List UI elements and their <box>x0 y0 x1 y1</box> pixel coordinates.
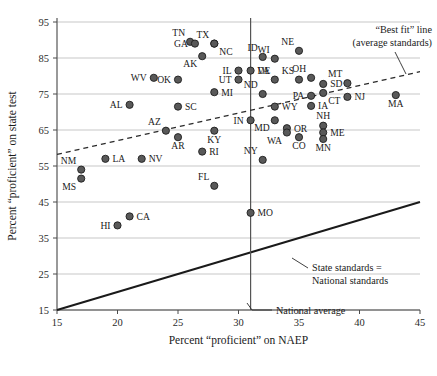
data-point-label-WA: WA <box>267 135 282 146</box>
data-point-SC[interactable] <box>174 103 181 110</box>
data-point-AL[interactable] <box>126 101 133 108</box>
data-point-label-TX: TX <box>197 29 210 40</box>
data-point-NY[interactable] <box>259 156 266 163</box>
data-point-CT[interactable] <box>320 89 327 96</box>
data-point-label-RI: RI <box>209 146 219 157</box>
data-point-IL[interactable] <box>235 67 242 74</box>
data-point-CA[interactable] <box>126 213 133 220</box>
data-point-label-NJ: NJ <box>354 91 365 102</box>
data-point-MT[interactable] <box>344 80 351 87</box>
chart-canvas: 15253545556575859515202530354045Percent … <box>0 0 437 376</box>
data-point-label-TN: TN <box>172 27 185 38</box>
data-point-SD[interactable] <box>320 80 327 87</box>
identity-leader-line <box>292 258 308 268</box>
data-point-MO[interactable] <box>247 209 254 216</box>
scatter-chart: 15253545556575859515202530354045Percent … <box>0 0 437 376</box>
data-point-LA[interactable] <box>102 155 109 162</box>
y-tick-label-75: 75 <box>39 89 50 100</box>
x-tick-label-45: 45 <box>415 317 426 328</box>
x-tick-label-25: 25 <box>173 317 184 328</box>
data-point-NE[interactable] <box>295 47 302 54</box>
x-tick-label-15: 15 <box>52 317 63 328</box>
y-tick-label-65: 65 <box>39 125 50 136</box>
x-tick-label-20: 20 <box>112 317 123 328</box>
data-point-label-PA: PA <box>293 90 304 101</box>
data-point-label-MD: MD <box>254 122 270 133</box>
data-point-NH[interactable] <box>320 122 327 129</box>
best-fit-leader-line <box>395 52 406 74</box>
data-point-WI[interactable] <box>271 55 278 62</box>
data-point-PA[interactable] <box>308 92 315 99</box>
data-point-label-MS: MS <box>62 181 76 192</box>
y-tick-label-85: 85 <box>39 53 50 64</box>
data-point-UT[interactable] <box>235 76 242 83</box>
data-point-WY[interactable] <box>271 103 278 110</box>
data-point-DE[interactable] <box>247 67 254 74</box>
y-tick-label-15: 15 <box>39 305 50 316</box>
data-point-AK[interactable] <box>199 53 206 60</box>
data-point-RI[interactable] <box>199 148 206 155</box>
data-point-NV[interactable] <box>138 155 145 162</box>
data-point-label-WV: WV <box>131 72 147 83</box>
data-point-IN[interactable] <box>247 117 254 124</box>
data-point-label-VA: VA <box>257 65 270 76</box>
data-point-NC[interactable] <box>211 40 218 47</box>
data-point-ND[interactable] <box>259 90 266 97</box>
data-point-label-AK: AK <box>183 58 197 69</box>
data-point-OH[interactable] <box>308 74 315 81</box>
data-point-NJ[interactable] <box>344 93 351 100</box>
data-point-NM[interactable] <box>78 166 85 173</box>
best-fit-line <box>57 72 420 155</box>
data-point-GA[interactable] <box>191 40 198 47</box>
y-tick-label-25: 25 <box>39 269 50 280</box>
data-point-IA[interactable] <box>308 102 315 109</box>
data-point-label-NE: NE <box>281 36 294 47</box>
data-point-label-WY: WY <box>282 101 298 112</box>
data-point-label-WI: WI <box>258 44 270 55</box>
data-point-MI[interactable] <box>211 89 218 96</box>
x-tick-label-40: 40 <box>354 317 365 328</box>
data-point-label-MN: MN <box>315 142 331 153</box>
data-point-HI[interactable] <box>114 222 121 229</box>
data-point-label-NV: NV <box>149 153 163 164</box>
data-point-label-IN: IN <box>233 115 243 126</box>
data-point-label-ID: ID <box>248 42 258 53</box>
data-point-OK[interactable] <box>174 76 181 83</box>
data-point-label-OR: OR <box>294 123 308 134</box>
y-tick-label-95: 95 <box>39 17 50 28</box>
identity-annotation-line2: National standards <box>312 275 388 286</box>
data-point-label-MO: MO <box>258 207 274 218</box>
data-point-MS[interactable] <box>78 175 85 182</box>
data-point-label-MI: MI <box>221 87 233 98</box>
x-axis-title: Percent “proficient” on NAEP <box>169 334 309 347</box>
data-point-label-AZ: AZ <box>148 116 161 127</box>
data-point-label-MT: MT <box>328 68 343 79</box>
identity-line <box>57 202 420 310</box>
data-point-label-HI: HI <box>100 220 110 231</box>
data-point-label-NH: NH <box>316 110 330 121</box>
data-point-label-AR: AR <box>171 140 185 151</box>
national-average-annotation: National average <box>276 305 346 316</box>
best-fit-annotation-line2: (average standards) <box>353 37 432 49</box>
data-point-AZ[interactable] <box>162 127 169 134</box>
data-point-FL[interactable] <box>211 182 218 189</box>
data-point-label-CT: CT <box>328 95 340 106</box>
data-point-label-ND: ND <box>244 79 258 90</box>
data-point-label-KY: KY <box>207 134 221 145</box>
data-point-label-SC: SC <box>185 101 197 112</box>
data-point-label-CA: CA <box>137 211 150 222</box>
data-point-KS[interactable] <box>295 76 302 83</box>
data-point-label-MA: MA <box>388 98 404 109</box>
data-point-MD[interactable] <box>271 117 278 124</box>
data-point-label-LA: LA <box>112 153 125 164</box>
data-point-label-NM: NM <box>61 155 77 166</box>
data-point-label-NC: NC <box>219 46 232 57</box>
data-point-VA[interactable] <box>271 76 278 83</box>
y-tick-label-35: 35 <box>39 233 50 244</box>
data-point-label-OH: OH <box>292 63 306 74</box>
data-point-label-ME: ME <box>330 127 345 138</box>
data-point-WA[interactable] <box>283 129 290 136</box>
y-axis-title: Percent “proficient” on state test <box>6 90 19 240</box>
data-point-label-UT: UT <box>219 74 232 85</box>
data-point-label-OK: OK <box>157 74 171 85</box>
